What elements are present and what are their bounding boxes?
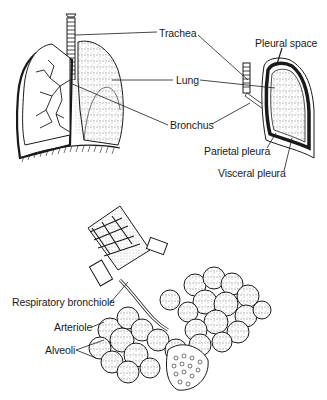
respiratory-diagram-art — [0, 0, 327, 400]
label-respiratory-bronchiole: Respiratory bronchiole — [12, 296, 115, 308]
label-parietal-pleura: Parietal pleura — [204, 145, 270, 157]
label-arteriole: Arteriole — [54, 321, 92, 333]
label-visceral-pleura: Visceral pleura — [218, 167, 286, 179]
lungs-illustration — [17, 14, 173, 162]
label-lung: Lung — [176, 74, 199, 86]
label-pleural-space: Pleural space — [255, 37, 317, 49]
label-trachea: Trachea — [159, 27, 196, 39]
label-bronchus: Bronchus — [170, 119, 214, 131]
label-alveoli: Alveoli — [45, 344, 75, 356]
